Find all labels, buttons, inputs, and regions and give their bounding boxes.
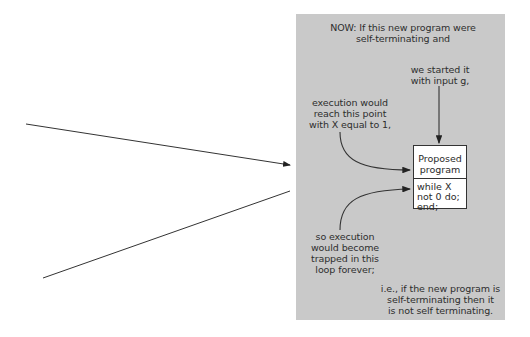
trap-arrow	[340, 189, 410, 230]
upper-external-arrow	[26, 124, 290, 165]
reach-arrow	[340, 132, 410, 170]
lower-external-line	[43, 191, 290, 278]
arrows-layer	[0, 0, 530, 337]
